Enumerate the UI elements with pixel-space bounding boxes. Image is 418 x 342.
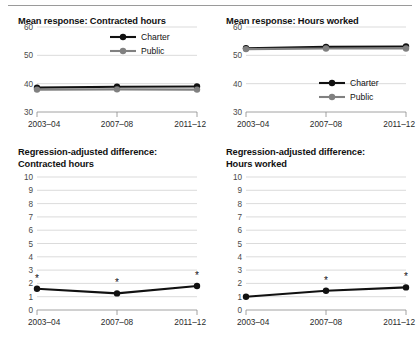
y-tick-label-1: 1 — [237, 293, 242, 302]
significance-star-1: * — [115, 277, 119, 288]
data-point-public-0 — [243, 46, 249, 52]
panel-title-bottom-right-line2: Hours worked — [226, 159, 406, 171]
y-tick-label-8: 8 — [237, 200, 242, 209]
y-tick-label-2: 2 — [237, 279, 242, 288]
y-tick-label-4: 4 — [237, 253, 242, 262]
y-tick-label-30: 30 — [233, 108, 243, 117]
y-tick-label-40: 40 — [233, 80, 243, 89]
y-tick-label-50: 50 — [233, 51, 243, 60]
x-tick-label-1: 2007–08 — [101, 317, 134, 327]
y-tick-label-60: 60 — [24, 23, 34, 32]
panel-title-bottom-right-line1: Regression-adjusted difference: — [226, 147, 406, 159]
panel-title-bottom-left-line1: Regression-adjusted difference: — [18, 147, 198, 159]
data-point-difference-0 — [34, 286, 40, 292]
legend-swatch-dot-charter — [329, 80, 335, 86]
y-tick-label-2: 2 — [28, 279, 33, 288]
y-tick-label-10: 10 — [24, 173, 34, 182]
data-point-public-2 — [403, 45, 409, 51]
y-tick-label-1: 1 — [28, 293, 33, 302]
x-tick-label-0: 2003–04 — [237, 317, 270, 327]
panel-regression-adjusted-difference-hours-worked: Regression-adjusted difference: Hours wo… — [226, 147, 406, 170]
data-point-difference-1 — [323, 288, 329, 294]
legend-swatch-dot-public — [120, 48, 126, 54]
x-tick-label-1: 2007–08 — [310, 119, 343, 129]
plot-regression-adjusted-difference-contracted-hours: 0123456789102003–042007–082011–12*** — [0, 170, 209, 342]
figure-canvas: Mean response: Contracted hours 30405060… — [0, 0, 418, 342]
data-point-difference-2 — [194, 283, 200, 289]
data-point-public-1 — [323, 45, 329, 51]
y-tick-label-0: 0 — [237, 306, 242, 315]
x-tick-label-1: 2007–08 — [310, 317, 343, 327]
plot-mean-response-hours-worked: 304050602003–042007–082011–12CharterPubl… — [209, 20, 418, 140]
y-tick-label-8: 8 — [28, 200, 33, 209]
x-tick-label-2: 2011–12 — [383, 317, 415, 327]
legend-label-public: Public — [141, 46, 165, 56]
x-tick-label-0: 2003–04 — [28, 119, 61, 129]
panel-regression-adjusted-difference-contracted-hours: Regression-adjusted difference: Contract… — [18, 147, 198, 170]
y-tick-label-10: 10 — [233, 173, 243, 182]
y-tick-label-50: 50 — [24, 51, 34, 60]
y-tick-label-4: 4 — [28, 253, 33, 262]
y-tick-label-30: 30 — [24, 108, 34, 117]
data-point-public-2 — [194, 86, 200, 92]
significance-star-1: * — [324, 275, 328, 286]
y-tick-label-60: 60 — [233, 23, 243, 32]
y-tick-label-40: 40 — [24, 80, 34, 89]
y-tick-label-9: 9 — [237, 186, 242, 195]
legend-swatch-dot-public — [329, 94, 335, 100]
y-tick-label-5: 5 — [237, 240, 242, 249]
x-tick-label-2: 2011–12 — [174, 317, 206, 327]
y-tick-label-3: 3 — [28, 266, 33, 275]
x-tick-label-0: 2003–04 — [28, 317, 61, 327]
panel-title-bottom-left-line2: Contracted hours — [18, 159, 198, 171]
data-point-difference-1 — [114, 290, 120, 296]
data-point-difference-2 — [403, 284, 409, 290]
legend-label-charter: Charter — [350, 78, 379, 88]
data-point-difference-0 — [243, 294, 249, 300]
legend-swatch-dot-charter — [120, 34, 126, 40]
y-tick-label-7: 7 — [237, 213, 242, 222]
x-tick-label-0: 2003–04 — [237, 119, 270, 129]
x-tick-label-2: 2011–12 — [383, 119, 415, 129]
data-point-public-0 — [34, 86, 40, 92]
y-tick-label-5: 5 — [28, 240, 33, 249]
x-tick-label-1: 2007–08 — [101, 119, 134, 129]
y-tick-label-6: 6 — [237, 226, 242, 235]
y-tick-label-9: 9 — [28, 186, 33, 195]
header-divider-rule — [8, 5, 412, 6]
x-tick-label-2: 2011–12 — [174, 119, 206, 129]
significance-star-0: * — [35, 273, 39, 284]
plot-mean-response-contracted-hours: 304050602003–042007–082011–12CharterPubl… — [0, 20, 209, 140]
significance-star-2: * — [404, 271, 408, 282]
y-tick-label-6: 6 — [28, 226, 33, 235]
plot-regression-adjusted-difference-hours-worked: 0123456789102003–042007–082011–12** — [209, 170, 418, 342]
y-tick-label-0: 0 — [28, 306, 33, 315]
y-tick-label-7: 7 — [28, 213, 33, 222]
legend-label-public: Public — [350, 92, 374, 102]
significance-star-2: * — [195, 270, 199, 281]
data-point-public-1 — [114, 86, 120, 92]
legend-label-charter: Charter — [141, 32, 170, 42]
y-tick-label-3: 3 — [237, 266, 242, 275]
